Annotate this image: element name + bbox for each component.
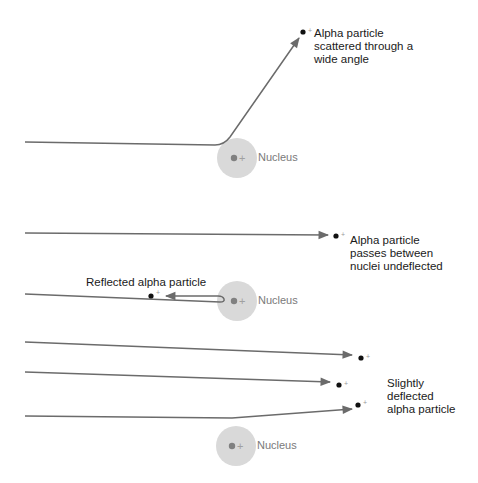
alpha-particle-dot — [358, 355, 363, 360]
slightly-deflected-trajectory-3 — [25, 409, 352, 418]
reflected-incoming-trajectory — [25, 294, 220, 302]
undeflected-label: Alpha particle passes between nuclei und… — [350, 234, 443, 273]
nucleus-label: Nucleus — [257, 439, 297, 451]
nucleus-halo — [216, 426, 256, 466]
alpha-particle-dot — [355, 402, 360, 407]
slightly-deflected-trajectory-1 — [25, 342, 352, 355]
alpha-particle-dot — [300, 29, 305, 34]
wide-angle-trajectory — [25, 38, 299, 145]
nucleus-core — [229, 443, 235, 449]
particle-charge-symbol: + — [366, 353, 370, 360]
nucleus-core — [231, 298, 237, 304]
particle-charge-symbol: + — [363, 399, 367, 406]
particle-charge-symbol: + — [344, 380, 348, 387]
alpha-particle-dot — [148, 293, 153, 298]
wide-angle-label: Alpha particle scattered through a wide … — [314, 27, 413, 66]
slightly-deflected-trajectory-2 — [25, 372, 330, 382]
alpha-particle-dot — [333, 233, 338, 238]
nucleus-label: Nucleus — [258, 294, 298, 306]
nucleus-charge-symbol: + — [237, 440, 243, 452]
particle-charge-symbol: + — [308, 27, 312, 34]
undeflected-panel — [25, 233, 339, 239]
slightly-deflected-panel — [25, 342, 364, 466]
particle-charge-symbol: + — [156, 289, 160, 296]
alpha-particle-dot — [336, 382, 341, 387]
nucleus-charge-symbol: + — [239, 295, 245, 307]
undeflected-trajectory — [25, 233, 328, 235]
slightly-deflected-label: Slightly deflected alpha particle — [387, 377, 455, 416]
nucleus-label: Nucleus — [258, 151, 298, 163]
reflected-label: Reflected alpha particle — [86, 276, 206, 289]
nucleus-charge-symbol: + — [239, 152, 245, 164]
particle-charge-symbol: + — [341, 231, 345, 238]
nucleus-core — [231, 155, 237, 161]
